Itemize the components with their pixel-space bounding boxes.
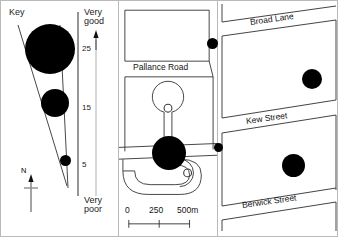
north-label: N <box>21 166 26 175</box>
culdesac-north-ring <box>164 104 172 112</box>
symbol-boundary-mid-small <box>214 143 223 152</box>
symbol-central-large <box>152 136 186 170</box>
key-tick-5: 5 <box>82 160 86 169</box>
scale-label-250: 250 <box>149 205 163 215</box>
key-panel: Key Very good Very poor 25 15 5 N <box>0 0 118 237</box>
key-top-label-line2: good <box>84 17 114 26</box>
key-symbol-large <box>25 24 75 74</box>
scale-label-500m: 500m <box>177 205 198 215</box>
scale-label-0: 0 <box>125 205 130 215</box>
key-symbol-small <box>60 155 71 166</box>
key-axis-arrow-head <box>93 30 98 38</box>
figure-proportional-symbol-map: Key Very good Very poor 25 15 5 N <box>0 0 338 237</box>
key-tick-25: 25 <box>82 44 91 53</box>
road-label-pallance-road: Pallance Road <box>133 62 188 72</box>
eastern-area-panel: Broad Lane Kew Street Berwick Street <box>218 0 338 237</box>
symbol-berwick-street-large <box>282 154 305 177</box>
north-arrow-head <box>28 174 33 182</box>
symbol-kew-street-medium <box>302 69 322 89</box>
central-area-roads <box>119 0 217 237</box>
key-bottom-label-line2: poor <box>84 205 114 214</box>
key-bottom-label: Very poor <box>84 196 114 215</box>
key-title: Key <box>9 8 25 17</box>
key-symbol-medium <box>41 89 69 117</box>
pallance-road-east-link <box>209 61 213 77</box>
symbol-boundary-north-small <box>207 38 218 49</box>
central-area-panel: Pallance Road 0 250 500m <box>118 0 218 237</box>
key-tick-15: 15 <box>82 103 91 112</box>
culdesac-south-ring <box>184 169 192 177</box>
culdesac-north-head <box>152 81 183 112</box>
key-top-label: Very good <box>84 8 114 27</box>
